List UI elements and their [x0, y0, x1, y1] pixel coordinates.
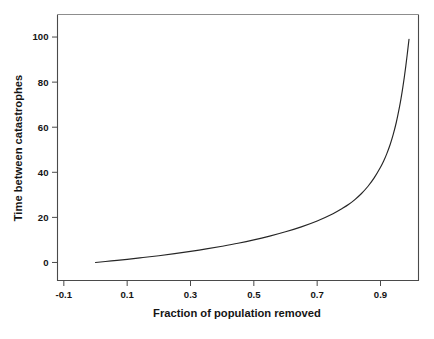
y-axis-title: Time between catastrophes — [12, 75, 24, 222]
y-tick-label: 20 — [38, 212, 49, 223]
x-tick-label: 0.7 — [310, 289, 323, 300]
figure-container: -0.10.10.30.50.70.9 020406080100 Fractio… — [0, 0, 434, 339]
x-tick-label: 0.1 — [120, 289, 134, 300]
x-tick-label: 0.9 — [374, 289, 387, 300]
y-tick-label: 0 — [43, 257, 48, 268]
x-axis-title: Fraction of population removed — [153, 307, 321, 319]
x-tick-label: -0.1 — [56, 289, 73, 300]
y-tick-label: 80 — [38, 77, 49, 88]
line-chart: -0.10.10.30.50.70.9 020406080100 Fractio… — [0, 0, 434, 339]
cropped-caption-strip — [0, 329, 434, 339]
y-tick-label: 60 — [38, 122, 49, 133]
x-tick-label: 0.3 — [184, 289, 197, 300]
y-tick-label: 40 — [38, 167, 49, 178]
x-tick-label: 0.5 — [247, 289, 261, 300]
y-tick-label: 100 — [32, 31, 48, 42]
